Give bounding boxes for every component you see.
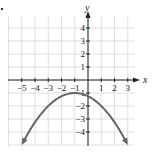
x-tick-label: −2: [57, 83, 67, 93]
x-axis-arrow-icon: [133, 78, 140, 83]
x-axis-label: x: [142, 74, 148, 85]
y-tick-label: −4: [75, 127, 85, 137]
x-tick-label: 1: [99, 83, 104, 93]
x-tick-label: −5: [17, 83, 27, 93]
y-tick-label: 3: [81, 36, 86, 46]
x-tick-label: 2: [112, 83, 117, 93]
y-axis-label: y: [84, 2, 90, 13]
x-tick-label: −3: [43, 83, 53, 93]
y-tick-label: −2: [75, 101, 85, 111]
x-tick-label: 3: [126, 83, 131, 93]
x-tick-label: −4: [30, 83, 40, 93]
y-tick-label: 2: [81, 49, 86, 59]
y-tick-label: 4: [81, 23, 86, 33]
y-tick-label: 1: [81, 62, 86, 72]
parabola-chart: xy−5−4−3−2−11234321−1−2−3−4: [0, 0, 153, 154]
y-tick-label: −3: [75, 114, 85, 124]
